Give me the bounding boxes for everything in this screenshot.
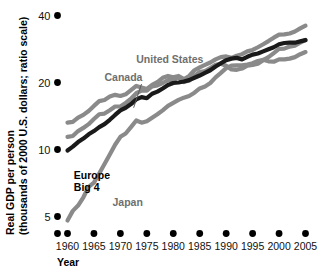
x-tick-dot bbox=[276, 230, 283, 237]
x-tick-label: 1970 bbox=[109, 240, 133, 252]
gdp-per-person-chart: 5102040 19601965197019751980198519901995… bbox=[0, 0, 329, 280]
y-axis-title-line1: Real GDP per person bbox=[4, 130, 16, 235]
x-tick-dot bbox=[143, 230, 150, 237]
x-tick-dot bbox=[91, 230, 98, 237]
series-label-europe-big-4: Europe bbox=[74, 169, 110, 181]
y-tick-label: 20 bbox=[38, 77, 50, 89]
y-tick-label: 5 bbox=[44, 211, 50, 223]
series-label-japan: Japan bbox=[112, 196, 142, 208]
y-tick-label: 40 bbox=[38, 10, 50, 22]
x-tick-label: 1965 bbox=[82, 240, 106, 252]
x-tick-label: 1980 bbox=[162, 240, 186, 252]
y-tick-dot bbox=[54, 12, 61, 19]
x-tick-dot bbox=[223, 230, 230, 237]
x-tick-label: 2005 bbox=[294, 240, 318, 252]
y-tick-dot bbox=[54, 213, 61, 220]
series-label-canada: Canada bbox=[105, 71, 143, 83]
y-tick-dot bbox=[54, 146, 61, 153]
x-axis-title: Year bbox=[57, 256, 79, 268]
x-tick-label: 2000 bbox=[267, 240, 291, 252]
y-axis-title-line2: (thousands of 2000 U.S. dollars; ratio s… bbox=[17, 17, 29, 235]
series-label-europe-big-4-line2: Big 4 bbox=[74, 181, 100, 193]
x-tick-label: 1975 bbox=[135, 240, 159, 252]
x-axis-origin-dot bbox=[54, 230, 61, 237]
y-tick-label: 10 bbox=[38, 144, 50, 156]
x-tick-label: 1960 bbox=[56, 240, 80, 252]
x-tick-dot bbox=[170, 230, 177, 237]
x-tick-label: 1990 bbox=[214, 240, 238, 252]
chart-canvas: 5102040 19601965197019751980198519901995… bbox=[0, 0, 329, 280]
x-tick-dot bbox=[196, 230, 203, 237]
x-tick-dot bbox=[249, 230, 256, 237]
y-tick-dot bbox=[54, 79, 61, 86]
series-label-united-states: United States bbox=[136, 53, 203, 65]
x-tick-dot bbox=[117, 230, 124, 237]
x-tick-label: 1985 bbox=[188, 240, 212, 252]
x-tick-label: 1995 bbox=[241, 240, 265, 252]
x-tick-dot bbox=[64, 230, 71, 237]
x-tick-dot bbox=[302, 230, 309, 237]
